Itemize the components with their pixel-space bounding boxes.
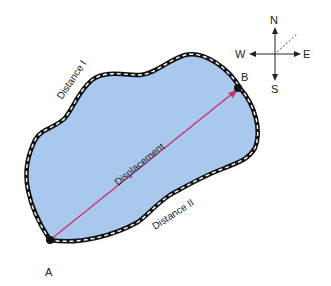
point-a-marker <box>46 236 54 244</box>
region-shape <box>26 54 257 241</box>
compass-south-label: S <box>271 83 278 95</box>
compass-west-label: W <box>235 48 246 60</box>
point-b-marker <box>234 84 242 92</box>
compass-north-label: N <box>270 14 278 26</box>
compass-east-label: E <box>303 48 310 60</box>
diagram-canvas: A B Distance I Distance II Displacement … <box>0 0 331 286</box>
point-a-label: A <box>45 266 53 278</box>
point-b-label: B <box>241 71 248 83</box>
